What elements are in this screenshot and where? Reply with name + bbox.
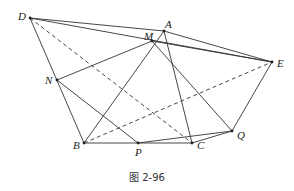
label-d: D [17, 10, 26, 22]
point-b [83, 142, 86, 145]
segment-ae [164, 31, 272, 62]
segment-qe [232, 62, 272, 131]
label-b: B [73, 139, 80, 151]
segment-mq [152, 41, 232, 131]
segment-mn [57, 41, 152, 80]
point-c [191, 142, 194, 145]
geometry-figure: DAMENQBPC 图 2-96 [0, 0, 294, 191]
segment-dc [30, 18, 192, 143]
point-a [163, 30, 166, 33]
segment-ac [164, 31, 192, 143]
label-c: C [197, 139, 205, 151]
label-a: A [164, 18, 172, 30]
label-e: E [276, 57, 284, 69]
label-q: Q [237, 129, 245, 141]
point-e [271, 61, 274, 64]
point-labels: DAMENQBPC [17, 10, 284, 158]
label-m: M [143, 30, 154, 42]
figure-caption: 图 2-96 [129, 172, 165, 183]
point-q [231, 130, 234, 133]
point-p [137, 142, 140, 145]
segment-pq [138, 131, 232, 143]
segment-np [57, 80, 138, 143]
segment-me [152, 41, 272, 62]
point-d [29, 17, 32, 20]
point-n [56, 79, 59, 82]
label-p: P [134, 146, 142, 158]
label-n: N [44, 74, 53, 86]
